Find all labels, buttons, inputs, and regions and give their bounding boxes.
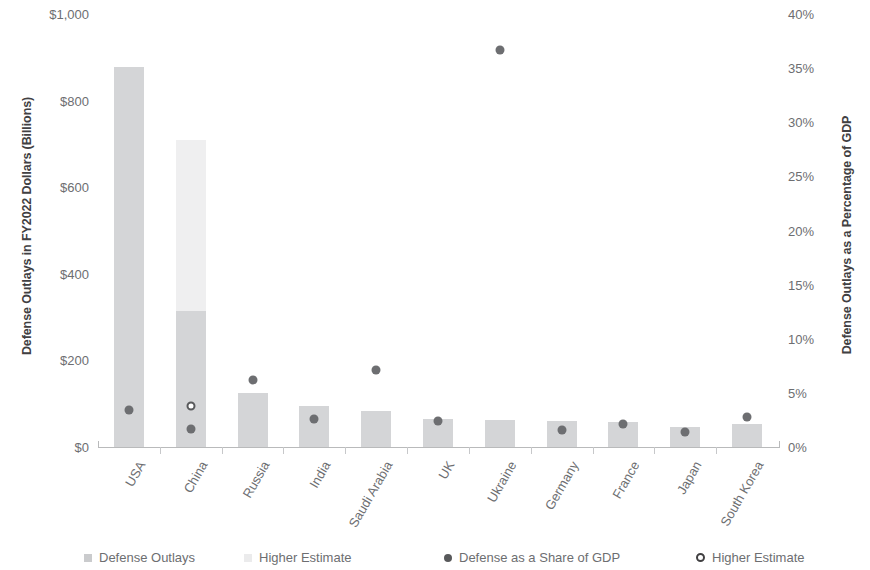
y-axis-right-tick-label: 0% (778, 440, 858, 455)
x-axis-left-cap (98, 441, 99, 448)
x-axis-label-text: France (610, 456, 645, 501)
gdp-share-higher-estimate-dot (186, 401, 195, 410)
x-axis-tick (222, 447, 223, 454)
x-axis-label-text: South Korea (717, 456, 768, 529)
bar-defense-outlays (238, 393, 268, 447)
y-axis-right-tick-label: 35% (778, 61, 858, 76)
gdp-share-dot (248, 375, 257, 384)
defense-outlays-chart: Defense Outlays in FY2022 Dollars (Billi… (0, 0, 870, 570)
y-axis-right-tick-label: 15% (778, 277, 858, 292)
bar-group (485, 14, 515, 447)
legend-item[interactable]: Higher Estimate (696, 550, 804, 565)
x-axis-label-text: Russia (239, 456, 273, 501)
y-axis-right-tick-label: 25% (778, 169, 858, 184)
legend-item[interactable]: Defense Outlays (84, 550, 195, 565)
x-axis-tick (593, 447, 594, 454)
gdp-share-dot (310, 414, 319, 423)
bar-defense-outlays (299, 406, 329, 447)
y-axis-right-tick-label: 20% (778, 223, 858, 238)
legend-label: Defense as a Share of GDP (459, 550, 620, 565)
legend-square-icon (84, 554, 92, 562)
x-axis-tick (160, 447, 161, 454)
x-axis-tick (654, 447, 655, 454)
y-axis-left-title: Defense Outlays in FY2022 Dollars (Billi… (20, 96, 34, 356)
x-axis-label-text: USA (122, 456, 150, 489)
y-axis-left-tick-label: $400 (19, 266, 98, 281)
bar-group (423, 14, 453, 447)
legend-label: Defense Outlays (99, 550, 195, 565)
legend-hollow-dot-icon (696, 553, 705, 562)
x-axis-label-text: Germany (541, 456, 582, 512)
y-axis-left-tick-label: $1,000 (19, 7, 98, 22)
y-axis-left-tick-label: $0 (19, 440, 98, 455)
legend-square-icon (244, 554, 252, 562)
bar-group (670, 14, 700, 447)
bar-group (361, 14, 391, 447)
legend-item[interactable]: Defense as a Share of GDP (444, 550, 620, 565)
gdp-share-dot (186, 424, 195, 433)
gdp-share-dot (743, 412, 752, 421)
bar-group (547, 14, 577, 447)
bar-defense-outlays (485, 420, 515, 447)
bar-defense-outlays (114, 67, 144, 447)
bar-group (114, 14, 144, 447)
x-axis-tick (345, 447, 346, 454)
legend-item[interactable]: Higher Estimate (244, 550, 351, 565)
gdp-share-dot (619, 420, 628, 429)
bar-group (608, 14, 638, 447)
y-axis-left-tick-label: $200 (19, 353, 98, 368)
legend-label: Higher Estimate (712, 550, 804, 565)
bar-group (299, 14, 329, 447)
gdp-share-dot (434, 417, 443, 426)
gdp-share-dot (557, 425, 566, 434)
bar-defense-outlays (732, 424, 762, 447)
x-axis-label-text: China (180, 456, 211, 496)
x-axis-label-text: India (307, 456, 336, 491)
y-axis-left-tick-label: $600 (19, 180, 98, 195)
y-axis-right-tick-label: 10% (778, 331, 858, 346)
gdp-share-dot (495, 45, 504, 54)
bar-defense-outlays (361, 411, 391, 447)
gdp-share-dot (681, 427, 690, 436)
gdp-share-dot (124, 406, 133, 415)
bar-higher-estimate (176, 140, 206, 311)
y-axis-left-tick-label: $800 (19, 93, 98, 108)
chart-legend: Defense OutlaysHigher EstimateDefense as… (84, 550, 824, 568)
x-axis-label-text: UK (435, 456, 459, 482)
x-axis-label-text: Ukraine (484, 456, 521, 505)
x-axis-tick (531, 447, 532, 454)
y-axis-right-tick-label: 30% (778, 115, 858, 130)
bar-group (732, 14, 762, 447)
x-axis-label-text: Japan (674, 456, 706, 497)
x-axis-tick (283, 447, 284, 454)
legend-dot-icon (444, 554, 452, 562)
x-axis-label-text: Saudi Arabia (346, 456, 397, 530)
plot-area: $0$200$400$600$800$1,000 0%5%10%15%20%25… (98, 14, 778, 447)
x-axis-tick (469, 447, 470, 454)
x-axis-tick (407, 447, 408, 454)
gdp-share-dot (372, 366, 381, 375)
legend-label: Higher Estimate (259, 550, 351, 565)
bar-group (176, 14, 206, 447)
y-axis-right-tick-label: 40% (778, 7, 858, 22)
x-axis-tick (716, 447, 717, 454)
x-axis-line (98, 447, 780, 448)
